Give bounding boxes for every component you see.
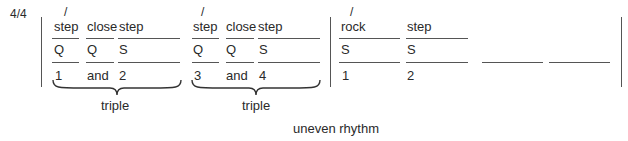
count-type: S — [341, 43, 350, 56]
count-type: S — [259, 43, 268, 56]
rule — [226, 62, 254, 63]
count: 2 — [407, 69, 414, 82]
rule — [86, 62, 114, 63]
accent-mark-measure-2: / — [201, 6, 204, 18]
accent-mark-measure-1: / — [64, 6, 67, 18]
rule — [118, 38, 180, 39]
step-label: step — [258, 20, 283, 33]
count: 1 — [342, 69, 349, 82]
count-type: S — [407, 43, 416, 56]
brace-icon — [52, 80, 182, 96]
step-label: step — [193, 20, 218, 33]
step-label: step — [119, 20, 144, 33]
rule — [52, 38, 79, 39]
rule — [339, 38, 400, 39]
barline-left — [41, 17, 42, 87]
count-type: S — [119, 43, 128, 56]
rule — [339, 62, 400, 63]
step-label: rock — [341, 20, 366, 33]
step-label: step — [54, 20, 79, 33]
accent-mark-measure-3: / — [350, 6, 353, 18]
rule — [258, 38, 320, 39]
rule — [406, 38, 468, 39]
time-signature: 4/4 — [10, 8, 27, 21]
brace-icon — [191, 80, 321, 96]
group-label: triple — [101, 99, 129, 112]
barline-middle — [330, 17, 331, 87]
rule — [192, 62, 219, 63]
caption: uneven rhythm — [293, 122, 379, 135]
count-type: Q — [54, 43, 64, 56]
count-type: Q — [193, 43, 203, 56]
step-label: step — [407, 20, 432, 33]
group-label: triple — [242, 99, 270, 112]
blank-rule — [482, 62, 543, 63]
rule — [258, 62, 320, 63]
rule — [86, 38, 114, 39]
step-label: close — [226, 20, 256, 33]
rule — [52, 62, 79, 63]
rule — [226, 38, 254, 39]
step-label: close — [87, 20, 117, 33]
rule — [118, 62, 180, 63]
count-type: Q — [226, 43, 236, 56]
rule — [192, 38, 219, 39]
blank-rule — [549, 62, 610, 63]
rule — [406, 62, 468, 63]
count-type: Q — [87, 43, 97, 56]
barline-right — [621, 17, 622, 87]
